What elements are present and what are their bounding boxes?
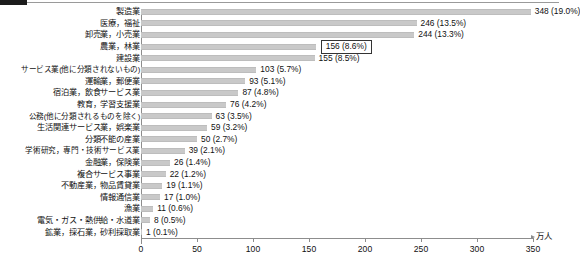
bar-and-value: 17 (1.0%) — [141, 192, 559, 204]
bar — [141, 20, 417, 26]
bar-and-value: 26 (1.4%) — [141, 157, 559, 169]
bar-and-value: 63 (3.5%) — [141, 110, 559, 122]
bar-row: 建設業155 (8.5%) — [0, 52, 559, 64]
category-label: 鉱業，採石業，砂利採取業 — [4, 228, 140, 237]
category-label: 不動産業，物品賃貸業 — [4, 181, 140, 190]
bar-and-value: 39 (2.1%) — [141, 145, 559, 157]
x-axis-tick-label: 50 — [192, 244, 202, 254]
bar-and-value: 59 (3.2%) — [141, 122, 559, 134]
bar — [141, 113, 212, 119]
value-label: 103 (5.7%) — [260, 65, 301, 74]
bar-row: 情報通信業17 (1.0%) — [0, 192, 559, 204]
bar-and-value: 11 (0.6%) — [141, 203, 559, 215]
plot-area: 製造業348 (19.0%)医療，福祉246 (13.5%)卸売業，小売業244… — [0, 6, 559, 238]
x-axis-tick — [253, 238, 254, 242]
category-label: サービス業(他に分類されないもの) — [4, 65, 140, 74]
value-label: 39 (2.1%) — [189, 146, 225, 155]
bar-and-value: 8 (0.5%) — [141, 215, 559, 227]
top-divider-rule — [27, 2, 559, 3]
bar — [141, 67, 256, 73]
bar-and-value: 22 (1.2%) — [141, 168, 559, 180]
x-axis-tick — [477, 238, 478, 242]
value-label: 87 (4.8%) — [242, 88, 278, 97]
bar — [141, 136, 197, 142]
bar — [141, 171, 166, 177]
bar-rows: 製造業348 (19.0%)医療，福祉246 (13.5%)卸売業，小売業244… — [0, 6, 559, 238]
bar-and-value: 1 (0.1%) — [141, 226, 559, 238]
category-label: 複合サービス事業 — [4, 170, 140, 179]
x-axis-tick — [533, 238, 534, 242]
value-label: 76 (4.2%) — [230, 100, 266, 109]
bar-row: 運輸業，郵便業93 (5.1%) — [0, 76, 559, 88]
bar-and-value: 87 (4.8%) — [141, 87, 559, 99]
category-label: 学術研究，専門・技術サービス業 — [4, 146, 140, 155]
bar — [141, 229, 142, 235]
bar-and-value: 93 (5.1%) — [141, 76, 559, 88]
bar-row: 分類不能の産業50 (2.7%) — [0, 134, 559, 146]
bar-row: 医療，福祉246 (13.5%) — [0, 18, 559, 30]
bar-and-value: 156 (8.6%) — [141, 41, 559, 53]
value-label: 1 (0.1%) — [146, 228, 178, 237]
bar-row: 卸売業，小売業244 (13.3%) — [0, 29, 559, 41]
bar — [141, 125, 207, 131]
bar — [141, 160, 170, 166]
value-label: 22 (1.2%) — [170, 170, 206, 179]
bar-and-value: 348 (19.0%) — [141, 6, 559, 18]
category-label: 漁業 — [4, 204, 140, 213]
value-label: 93 (5.1%) — [249, 77, 285, 86]
category-label: 運輸業，郵便業 — [4, 77, 140, 86]
category-label: 電気・ガス・熱供給・水道業 — [4, 216, 140, 225]
bar — [141, 9, 531, 15]
x-axis-tick-label: 350 — [526, 244, 540, 254]
value-label: 244 (13.3%) — [418, 30, 464, 39]
x-axis-tick-label: 250 — [414, 244, 428, 254]
category-label: 金融業，保険業 — [4, 158, 140, 167]
x-axis-tick-label: 0 — [139, 244, 144, 254]
value-label: 11 (0.6%) — [157, 204, 193, 213]
value-label: 26 (1.4%) — [174, 158, 210, 167]
category-label: 卸売業，小売業 — [4, 30, 140, 39]
value-label: 348 (19.0%) — [535, 7, 580, 16]
bar-row: 宿泊業，飲食サービス業87 (4.8%) — [0, 87, 559, 99]
bar — [141, 102, 226, 108]
bar-row: 複合サービス事業22 (1.2%) — [0, 168, 559, 180]
bar-row: 生活関連サービス業，娯楽業59 (3.2%) — [0, 122, 559, 134]
value-label: 155 (8.5%) — [319, 54, 360, 63]
bar — [141, 194, 160, 200]
bar-row: 電気・ガス・熱供給・水道業8 (0.5%) — [0, 215, 559, 227]
bar-and-value: 50 (2.7%) — [141, 134, 559, 146]
category-label: 教育，学習支援業 — [4, 100, 140, 109]
bar-and-value: 103 (5.7%) — [141, 64, 559, 76]
x-axis-unit-label: 万人 — [536, 231, 552, 241]
x-axis-tick-label: 300 — [470, 244, 484, 254]
category-label: 製造業 — [4, 7, 140, 16]
bar — [141, 44, 316, 50]
x-axis-tick — [141, 238, 142, 242]
bar — [141, 32, 414, 38]
bar-and-value: 19 (1.1%) — [141, 180, 559, 192]
bar — [141, 55, 315, 61]
category-label: 建設業 — [4, 54, 140, 63]
bar — [141, 90, 238, 96]
x-axis-tick — [365, 238, 366, 242]
bar — [141, 78, 245, 84]
value-label: 8 (0.5%) — [154, 216, 186, 225]
bar-row: 教育，学習支援業76 (4.2%) — [0, 99, 559, 111]
category-label: 宿泊業，飲食サービス業 — [4, 88, 140, 97]
x-axis-tick — [197, 238, 198, 242]
bar-row: 公務(他に分類されるものを除く)63 (3.5%) — [0, 110, 559, 122]
bar-and-value: 246 (13.5%) — [141, 18, 559, 30]
value-label: 17 (1.0%) — [164, 193, 200, 202]
bar-row: 不動産業，物品賃貸業19 (1.1%) — [0, 180, 559, 192]
bar-row: 学術研究，専門・技術サービス業39 (2.1%) — [0, 145, 559, 157]
bar — [141, 206, 153, 212]
bar-row: サービス業(他に分類されないもの)103 (5.7%) — [0, 64, 559, 76]
x-axis-line — [141, 238, 533, 239]
bar-and-value: 155 (8.5%) — [141, 52, 559, 64]
x-axis-tick-label: 200 — [358, 244, 372, 254]
bar — [141, 217, 150, 223]
bar-and-value: 76 (4.2%) — [141, 99, 559, 111]
x-axis-tick-label: 150 — [302, 244, 316, 254]
x-axis-tick-label: 100 — [246, 244, 260, 254]
